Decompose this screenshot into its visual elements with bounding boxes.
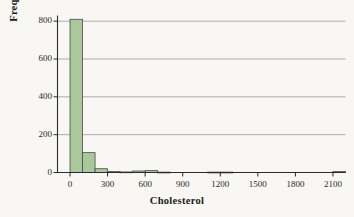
y-tick-label: 600 — [20, 53, 52, 63]
x-tick-label: 0 — [50, 179, 90, 189]
histogram-bar — [70, 19, 83, 172]
x-tick-label: 1800 — [275, 179, 315, 189]
x-axis-title: Cholesterol — [0, 195, 354, 206]
x-tick-label: 1200 — [200, 179, 240, 189]
x-tick-label: 600 — [125, 179, 165, 189]
y-tick-label: 400 — [20, 91, 52, 101]
y-tick-label: 800 — [20, 15, 52, 25]
x-tick-label: 300 — [88, 179, 128, 189]
histogram-bar — [83, 153, 96, 173]
x-tick-label: 1500 — [238, 179, 278, 189]
histogram-chart: Frequency 0200400600800 0300600900120015… — [0, 0, 354, 217]
x-tick-label: 900 — [163, 179, 203, 189]
histogram-bar — [95, 169, 108, 173]
x-tick-label: 2100 — [313, 179, 353, 189]
y-tick-label: 200 — [20, 129, 52, 139]
y-tick-label: 0 — [20, 167, 52, 177]
